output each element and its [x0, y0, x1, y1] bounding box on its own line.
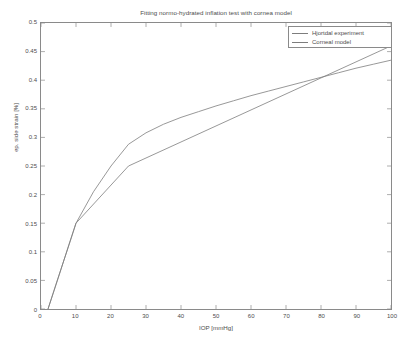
legend-item: Corneal model: [289, 38, 391, 47]
y-tick-label: 0.5: [7, 19, 37, 25]
y-tick-label: 0.2: [7, 192, 37, 198]
x-axis-label: IOP [mmHg]: [40, 324, 392, 331]
series-lines-group: [48, 46, 391, 309]
legend-line-swatch: [292, 33, 308, 34]
legend-item-label: Hjortdal experiment: [312, 29, 364, 38]
y-tick-label: 0.15: [7, 221, 37, 227]
x-tick-label: 10: [60, 313, 90, 319]
legend-line-swatch: [292, 42, 308, 43]
x-tick-label: 0: [25, 313, 55, 319]
x-tick-label: 60: [236, 313, 266, 319]
x-tick-label: 90: [342, 313, 372, 319]
x-tick-label: 100: [377, 313, 407, 319]
legend-item-label: Corneal model: [312, 38, 351, 47]
x-tick-label: 80: [307, 313, 337, 319]
plot-axes-area: [40, 22, 392, 310]
y-axis-label: ep. side strain [%]: [12, 83, 19, 173]
y-tick-label: 0.45: [7, 48, 37, 54]
series-line: [48, 60, 391, 309]
x-tick-label: 70: [271, 313, 301, 319]
chart-legend: Hjortdal experiment Corneal model: [288, 26, 392, 48]
figure-canvas: Fitting normo-hydrated inflation test wi…: [0, 0, 415, 341]
chart-title: Fitting normo-hydrated inflation test wi…: [40, 9, 392, 16]
tick-marks-group: [41, 23, 391, 309]
legend-item: Hjortdal experiment: [289, 29, 391, 38]
x-tick-label: 20: [95, 313, 125, 319]
x-tick-label: 50: [201, 313, 231, 319]
series-line: [48, 46, 391, 309]
y-axis-tick-labels: 00.050.10.150.20.250.30.350.40.450.5: [5, 22, 37, 310]
y-tick-label: 0.05: [7, 278, 37, 284]
x-tick-label: 30: [131, 313, 161, 319]
x-tick-label: 40: [166, 313, 196, 319]
plot-lines-svg: [41, 23, 391, 309]
y-tick-label: 0.1: [7, 249, 37, 255]
